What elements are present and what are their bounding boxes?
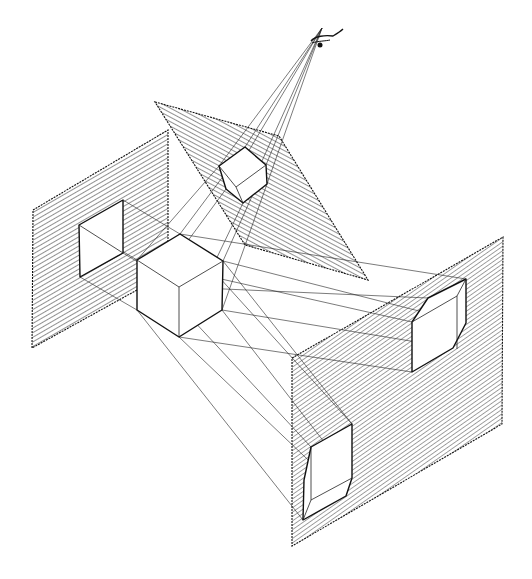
diagram-canvas [0,0,532,579]
projection-diagram [0,0,532,579]
